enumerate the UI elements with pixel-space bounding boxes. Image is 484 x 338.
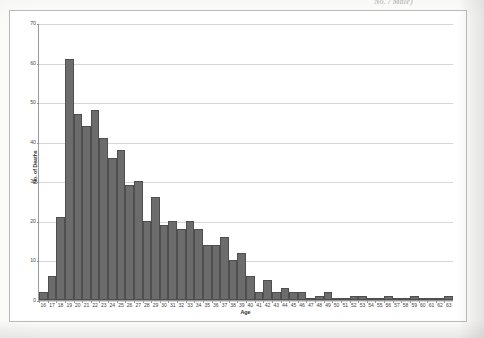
bar[interactable] [56,217,65,300]
bar-slot[interactable]: 62 [436,24,445,300]
bar[interactable] [393,298,402,300]
bar-slot[interactable]: 20 [74,24,83,300]
bar-slot[interactable]: 18 [56,24,65,300]
bar-slot[interactable]: 40 [246,24,255,300]
bar[interactable] [108,158,117,300]
bar[interactable] [186,221,195,300]
bar-slot[interactable]: 59 [410,24,419,300]
bar-slot[interactable]: 32 [177,24,186,300]
bar[interactable] [255,292,264,300]
bar-slot[interactable]: 63 [444,24,453,300]
bar-slot[interactable]: 51 [341,24,350,300]
bar-slot[interactable]: 24 [108,24,117,300]
bar[interactable] [134,181,143,300]
bar-slot[interactable]: 36 [212,24,221,300]
bar-slot[interactable]: 26 [125,24,134,300]
bar-slot[interactable]: 50 [332,24,341,300]
bar-slot[interactable]: 30 [160,24,169,300]
x-tick-label: 61 [429,303,435,308]
bar[interactable] [65,59,74,300]
bar[interactable] [177,229,186,300]
bar[interactable] [289,292,298,300]
bar-slot[interactable]: 53 [358,24,367,300]
bar[interactable] [272,292,281,300]
bar[interactable] [298,292,307,300]
x-tick-label: 31 [170,303,176,308]
bar[interactable] [117,150,126,300]
bar[interactable] [419,298,428,300]
chart-canvas: No. of Deaths 010203040506070 1617181920… [10,11,468,323]
bar[interactable] [263,280,272,300]
bar-slot[interactable]: 39 [237,24,246,300]
bar-slot[interactable]: 58 [401,24,410,300]
bar-slot[interactable]: 57 [393,24,402,300]
bar[interactable] [427,298,436,300]
bar-slot[interactable]: 23 [99,24,108,300]
bar-slot[interactable]: 28 [143,24,152,300]
bar-slot[interactable]: 43 [272,24,281,300]
bar[interactable] [350,296,359,300]
bar-slot[interactable]: 27 [134,24,143,300]
bar-slot[interactable]: 37 [220,24,229,300]
bar[interactable] [306,298,315,300]
bar[interactable] [151,197,160,300]
bar-slot[interactable]: 42 [263,24,272,300]
bar-slot[interactable]: 34 [194,24,203,300]
x-tick-label: 18 [58,303,64,308]
bar-slot[interactable]: 55 [375,24,384,300]
bar-slot[interactable]: 29 [151,24,160,300]
bar[interactable] [48,276,57,300]
bar[interactable] [281,288,290,300]
bar[interactable] [237,253,246,300]
bar[interactable] [212,245,221,300]
bar-slot[interactable]: 16 [39,24,48,300]
bar[interactable] [194,229,203,300]
bar[interactable] [168,221,177,300]
bar[interactable] [143,221,152,300]
bar[interactable] [358,296,367,300]
bar[interactable] [332,298,341,300]
bar[interactable] [246,276,255,300]
bar[interactable] [99,138,108,300]
bar[interactable] [375,298,384,300]
bar[interactable] [401,298,410,300]
bar-slot[interactable]: 61 [427,24,436,300]
bar[interactable] [315,296,324,300]
bar-slot[interactable]: 35 [203,24,212,300]
bar-slot[interactable]: 52 [350,24,359,300]
bar-slot[interactable]: 45 [289,24,298,300]
bar-slot[interactable]: 19 [65,24,74,300]
bar[interactable] [82,126,91,300]
bar-slot[interactable]: 41 [255,24,264,300]
bar[interactable] [324,292,333,300]
bar-slot[interactable]: 60 [419,24,428,300]
bar[interactable] [410,296,419,300]
bar[interactable] [436,298,445,300]
bar-slot[interactable]: 44 [281,24,290,300]
bar-slot[interactable]: 21 [82,24,91,300]
bar-slot[interactable]: 47 [306,24,315,300]
bar-slot[interactable]: 48 [315,24,324,300]
bar-slot[interactable]: 33 [186,24,195,300]
bar[interactable] [125,185,134,300]
bar-slot[interactable]: 38 [229,24,238,300]
bar-slot[interactable]: 46 [298,24,307,300]
bar[interactable] [74,114,83,300]
bar[interactable] [367,298,376,300]
bar-slot[interactable]: 56 [384,24,393,300]
bar[interactable] [341,298,350,300]
bar[interactable] [384,296,393,300]
bar[interactable] [444,296,453,300]
bar-slot[interactable]: 17 [48,24,57,300]
bar[interactable] [160,225,169,300]
bar[interactable] [39,292,48,300]
bar[interactable] [229,260,238,300]
bar-slot[interactable]: 22 [91,24,100,300]
bar-slot[interactable]: 25 [117,24,126,300]
bar-slot[interactable]: 54 [367,24,376,300]
bar[interactable] [203,245,212,300]
bar-slot[interactable]: 31 [168,24,177,300]
bar[interactable] [220,237,229,300]
bar[interactable] [91,110,100,300]
bar-slot[interactable]: 49 [324,24,333,300]
